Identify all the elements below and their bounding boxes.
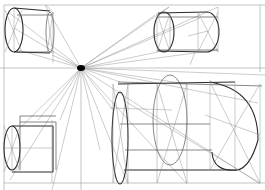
frame-lines xyxy=(0,5,265,190)
cylinder-bottom-right-large xyxy=(110,75,262,184)
vanishing-point xyxy=(77,65,85,71)
converging-rays xyxy=(8,5,265,190)
cylinder-bottom-left xyxy=(4,116,56,183)
cylinder-top-right xyxy=(154,7,219,65)
drawing-canvas xyxy=(0,0,265,190)
cylinder-top-left xyxy=(5,5,54,63)
